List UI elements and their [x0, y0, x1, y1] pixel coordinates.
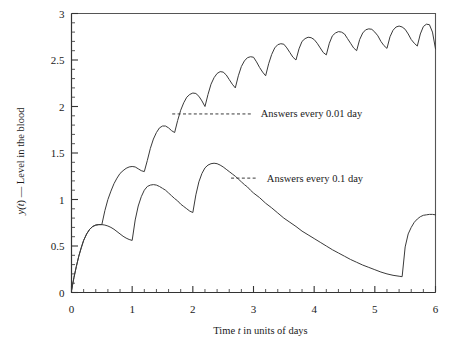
x-tick-label: 4: [311, 303, 317, 315]
chart-annotations: Answers every 0.01 dayAnswers every 0.1 …: [172, 108, 364, 183]
series-line-2: [72, 163, 436, 290]
chart-series-group: [72, 24, 436, 290]
plot-axes: [72, 14, 436, 293]
annotation-label-1: Answers every 0.01 day: [261, 108, 363, 119]
x-tick-label: 6: [433, 303, 439, 315]
y-tick-label: 0.5: [51, 240, 65, 252]
y-tick-label: 1: [59, 194, 65, 206]
chart-figure: 012345600.511.522.53Answers every 0.01 d…: [0, 0, 459, 351]
y-tick-label: 1.5: [51, 147, 65, 159]
x-tick-label: 3: [251, 303, 257, 315]
x-tick-label: 5: [372, 303, 378, 315]
x-axis-ticks: 0123456: [69, 286, 439, 315]
series-line-1: [72, 24, 436, 290]
y-tick-label: 3: [59, 8, 65, 20]
x-axis-title: Time t in units of days: [213, 325, 307, 336]
x-tick-label: 2: [190, 303, 196, 315]
y-axis-title: y(t) — Level in the blood: [15, 107, 27, 216]
plot-frame: [72, 14, 436, 293]
x-tick-label: 0: [69, 303, 75, 315]
y-tick-label: 2.5: [51, 54, 65, 66]
annotation-label-2: Answers every 0.1 day: [267, 173, 364, 184]
y-tick-label: 0: [59, 287, 65, 299]
x-tick-label: 1: [129, 303, 135, 315]
drug-level-line-chart: 012345600.511.522.53Answers every 0.01 d…: [0, 0, 459, 351]
y-tick-label: 2: [59, 101, 65, 113]
